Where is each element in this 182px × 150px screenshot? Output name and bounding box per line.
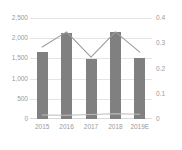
y-axis-right-tick-0-1: 0.1 xyxy=(156,91,165,98)
y-axis-right-tick-0-2: 0.2 xyxy=(156,66,165,73)
x-axis-label-2017: 2017 xyxy=(78,124,104,131)
y-axis-left-tick-0: 0 xyxy=(24,116,28,123)
line-upper-path xyxy=(42,32,140,57)
line-lower-path xyxy=(42,114,140,116)
plot-area xyxy=(30,18,152,119)
line-series-layer xyxy=(30,18,152,119)
chart-container: 2,500 2,000 1,500 1,000 500 0 0.4 0.3 0.… xyxy=(0,0,182,150)
y-axis-left-tick-1000: 1,000 xyxy=(12,76,28,83)
y-axis-left-tick-1500: 1,500 xyxy=(12,55,28,62)
y-axis-right-tick-0-3: 0.3 xyxy=(156,40,165,47)
x-axis-label-2015: 2015 xyxy=(29,124,55,131)
y-axis-left-tick-2500: 2,500 xyxy=(12,15,28,22)
x-axis-label-2018: 2018 xyxy=(102,124,128,131)
y-axis-right-tick-0-4: 0.4 xyxy=(156,15,165,22)
y-axis-left-tick-500: 500 xyxy=(17,96,28,103)
y-axis-left-tick-2000: 2,000 xyxy=(12,35,28,42)
x-axis-label-2019e: 2019E xyxy=(127,124,153,131)
y-axis-right-tick-0: 0 xyxy=(156,116,160,123)
x-axis-label-2016: 2016 xyxy=(54,124,80,131)
